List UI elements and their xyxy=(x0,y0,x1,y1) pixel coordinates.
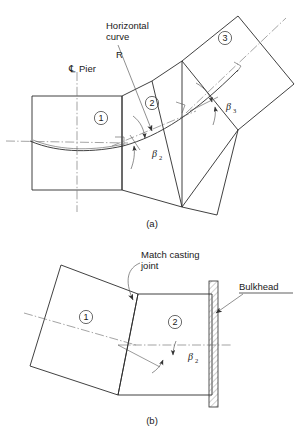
segment-3-number-text: 3 xyxy=(222,33,227,43)
segment-2-number-text-b: 2 xyxy=(172,317,177,327)
panel-b-diagram: Match casting joint Bulkhead 1 2 β 2 (b) xyxy=(0,232,304,439)
figure-root: ℄ Pier Horizontal curve R 1 2 3 β 2 β 3 … xyxy=(0,0,304,439)
bulkhead-label-group-b: Bulkhead xyxy=(239,281,293,293)
perpendicular-marks-a xyxy=(115,62,241,146)
beta3-subscript: 3 xyxy=(233,107,236,114)
beta2-subscript-b: 2 xyxy=(195,357,198,364)
bulkhead-plate-b xyxy=(209,281,218,407)
segment-3-number-a: 3 xyxy=(218,31,231,44)
segment-1-number-b: 1 xyxy=(79,310,92,323)
segment-1-number-text-b: 1 xyxy=(83,312,88,322)
segment-2-body-b xyxy=(118,294,212,395)
angle-beta2-marker-b xyxy=(118,341,176,373)
segment-3-body-a xyxy=(182,16,294,215)
angle-beta3-label-a: β 3 xyxy=(225,101,236,114)
horizontal-curve-label-line1: Horizontal xyxy=(106,20,149,31)
panel-a-diagram: ℄ Pier Horizontal curve R 1 2 3 β 2 β 3 … xyxy=(0,0,304,232)
segment-2-number-text: 2 xyxy=(149,98,154,108)
horizontal-curve-leader-a xyxy=(118,45,152,131)
panel-a-caption: (a) xyxy=(146,218,158,229)
beta2-symbol-b: β xyxy=(187,351,193,362)
segment-2-number-b: 2 xyxy=(168,315,181,328)
pier-centerline-symbol: ℄ xyxy=(68,63,76,74)
angle-beta3-marker-a xyxy=(190,83,218,125)
beta2-symbol: β xyxy=(151,148,157,159)
panel-b-caption: (b) xyxy=(146,415,158,426)
segment-2-body-a xyxy=(122,61,182,207)
curve-radius-label: R xyxy=(116,49,123,60)
match-casting-label-line1: Match casting xyxy=(141,249,200,260)
segment-1-number-text: 1 xyxy=(98,113,103,123)
segment-1-number-a: 1 xyxy=(94,111,107,124)
chord-centerlines-a xyxy=(6,18,286,146)
bulkhead-leader-b xyxy=(216,294,243,313)
segment-2-number-a: 2 xyxy=(145,96,158,109)
angle-beta2-label-a: β 2 xyxy=(151,148,162,161)
angle-beta2-label-b: β 2 xyxy=(187,351,198,364)
pier-centerline-label: Pier xyxy=(79,63,96,74)
beta3-symbol: β xyxy=(225,101,231,112)
beta2-subscript: 2 xyxy=(159,154,162,161)
horizontal-curve-label-line2: curve xyxy=(106,31,129,42)
horizontal-curve-alignment-a xyxy=(30,70,238,151)
bulkhead-label: Bulkhead xyxy=(239,281,279,292)
angle-beta2-marker-a xyxy=(130,116,145,169)
match-casting-label-line2: joint xyxy=(140,260,159,271)
chord-centerlines-b xyxy=(24,313,232,345)
